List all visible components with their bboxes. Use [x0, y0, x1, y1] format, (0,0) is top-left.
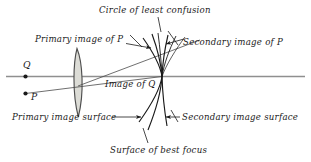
astigmatism-diagram: Circle of least confusion Primary image … — [0, 0, 311, 162]
secondary-image-surface-curve — [162, 35, 168, 126]
label-primary-image-surface: Primary image surface — [12, 113, 116, 122]
label-surface-of-best-focus: Surface of best focus — [110, 146, 207, 155]
label-secondary-image-of-p: Secondary image of P — [183, 38, 283, 47]
leader-secondary-image-surface-tick — [171, 110, 178, 122]
leader-surface-of-best-focus — [143, 128, 148, 143]
label-primary-image-of-p: Primary image of P — [35, 35, 123, 44]
leader-circle-of-least-confusion — [158, 17, 161, 32]
label-object-point-q: Q — [23, 60, 31, 69]
caustic-stroke-c — [162, 37, 185, 77]
label-image-of-q: Image of Q — [105, 80, 156, 89]
label-circle-of-least-confusion: Circle of least confusion — [99, 6, 211, 15]
object-point-p-dot — [23, 91, 27, 95]
label-secondary-image-surface: Secondary image surface — [182, 113, 298, 122]
object-point-q-dot — [23, 74, 27, 78]
label-object-point-p: P — [31, 92, 37, 101]
lens-body — [74, 49, 82, 118]
